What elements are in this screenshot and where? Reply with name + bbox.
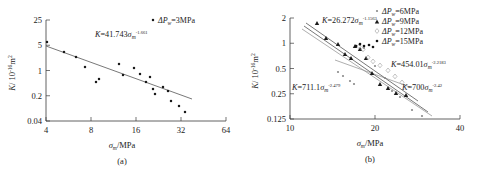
- panel-a-ytick-2: 1: [38, 66, 42, 76]
- panel-b-equation-1: K=454.01σm-2.2183: [390, 60, 447, 70]
- panel-a-legend: ΔPw=3MPa: [152, 16, 196, 26]
- panel-a-ytick-0: 25: [34, 15, 43, 25]
- panel-a-fit-line: [46, 46, 192, 99]
- panel-a-xtick-1: 8: [89, 125, 93, 135]
- panel-a-axes: [46, 20, 226, 121]
- legend-marker-dot-gray-icon: [376, 10, 378, 12]
- panel-b-xtick-0: 10: [286, 123, 295, 133]
- panel-b-equation-3: K=700σm-2.42: [401, 83, 443, 93]
- panel-a-xtick-0: 4: [44, 125, 49, 135]
- panel-b-xtick-2: 40: [456, 123, 465, 133]
- panel-b-yaxis-title: K/ 10-16m2: [250, 53, 260, 90]
- panel-a-xtick-4: 64: [222, 125, 231, 135]
- panel-a-data-points: [46, 41, 187, 114]
- panel-b-series-6mpa-points: [337, 44, 423, 117]
- panel-b-ytick-3: 0.25: [271, 89, 286, 99]
- panel-b-axes: [290, 18, 460, 119]
- panel-a-plot: 25 5 1 0.2 0.04 4 8 16 32 64 σm/MPa K/ 1…: [0, 0, 241, 169]
- legend-marker-dot-solid-icon: [376, 40, 379, 43]
- panel-b-xtick-1: 20: [371, 123, 380, 133]
- panel-a-ytick-3: 0.2: [31, 91, 42, 101]
- panel-b-ytick-1: 1: [282, 38, 286, 48]
- panel-b-caption: (b): [365, 154, 375, 164]
- panel-b-legend-item-2: ΔPw=12MPa: [381, 27, 423, 37]
- panel-b-plot: 2 1 0.5 0.25 0.125 10 20 40 σm/MPa K/ 10…: [242, 0, 483, 169]
- legend-marker-dot-icon: [152, 19, 155, 22]
- panel-a-xtick-3: 32: [177, 125, 186, 135]
- panel-a-ytick-4: 0.04: [27, 116, 43, 126]
- panel-b-xaxis-title: σm/MPa: [357, 138, 384, 149]
- panel-b-legend-item-0: ΔPw=6MPa: [381, 7, 419, 17]
- panel-a-xtick-2: 16: [132, 125, 141, 135]
- panel-b-legend: ΔPw=6MPa ΔPw=9MPa ΔPw=12MPa ΔPw=15MPa: [375, 7, 424, 47]
- chart-panel-a: 25 5 1 0.2 0.04 4 8 16 32 64 σm/MPa K/ 1…: [0, 0, 241, 169]
- panel-b-equation-0: K=26.272σm-1.1563: [321, 16, 378, 26]
- panel-a-ytick-1: 5: [38, 40, 42, 50]
- figure-container: 25 5 1 0.2 0.04 4 8 16 32 64 σm/MPa K/ 1…: [0, 0, 483, 169]
- panel-b-ytick-0: 2: [282, 13, 286, 23]
- panel-b-equation-2: K=711.1σm-2.479: [291, 83, 341, 93]
- chart-panel-b: 2 1 0.5 0.25 0.125 10 20 40 σm/MPa K/ 10…: [242, 0, 483, 169]
- panel-a-xaxis-title: σm/MPa: [109, 140, 136, 151]
- panel-b-legend-item-3: ΔPw=15MPa: [381, 37, 423, 47]
- panel-b-legend-item-1: ΔPw=9MPa: [381, 17, 419, 27]
- panel-b-ytick-4: 0.125: [267, 114, 286, 124]
- panel-a-yaxis-title: K/ 10-16m2: [7, 55, 17, 92]
- panel-b-ytick-2: 0.5: [275, 64, 286, 74]
- panel-a-equation-0: K=41.743σm-1.661: [94, 30, 148, 40]
- panel-a-caption: (a): [117, 156, 127, 166]
- panel-a-legend-item-0: ΔPw=3MPa: [157, 16, 195, 26]
- legend-marker-diamond-icon: [375, 29, 379, 34]
